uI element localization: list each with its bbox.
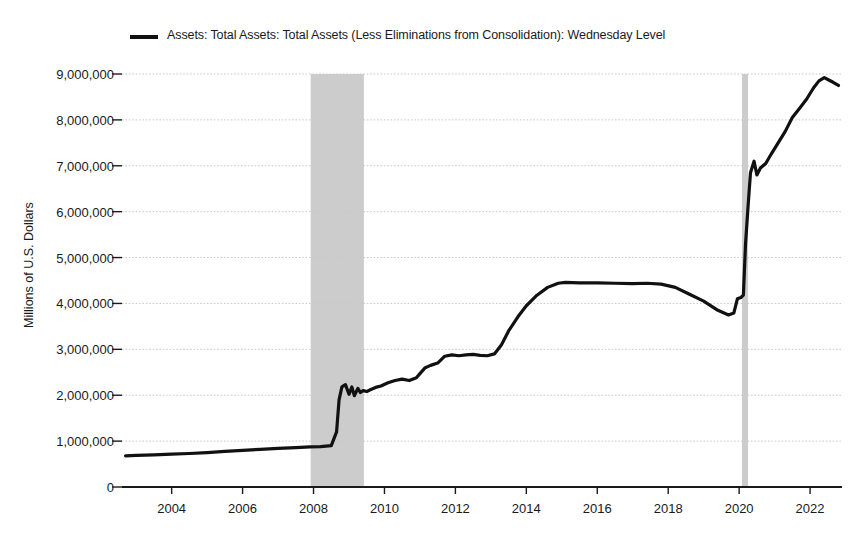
series-line (126, 78, 839, 456)
recession-bands (311, 74, 748, 487)
plot-area (0, 0, 853, 560)
chart-svg (0, 0, 853, 560)
grid-lines (122, 74, 842, 441)
y-axis-ticks (112, 74, 122, 487)
data-series-group (126, 78, 839, 456)
chart-page: Assets: Total Assets: Total Assets (Less… (0, 0, 853, 560)
